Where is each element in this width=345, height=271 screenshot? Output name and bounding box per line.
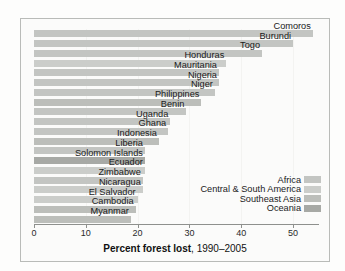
x-tick-label: 50 [288, 228, 298, 238]
legend-item-label: Oceania [267, 203, 301, 213]
x-tick-label: 20 [133, 228, 143, 238]
legend-item: Africa [200, 175, 321, 185]
gridline [86, 29, 87, 224]
x-tick-label: 10 [81, 228, 91, 238]
legend-item: Southeast Asia [200, 194, 321, 204]
axis-title-plain: , 1990–2005 [191, 243, 247, 254]
x-axis-line [34, 224, 319, 225]
chart-legend: AfricaCentral & South AmericaSoutheast A… [200, 175, 321, 213]
legend-item-label: Africa [278, 175, 302, 185]
bar-label: Myanmar [91, 208, 129, 217]
bar-label: Togo [240, 42, 260, 51]
bar-label: Burundi [259, 32, 291, 41]
x-tick-label: 40 [236, 228, 246, 238]
legend-swatch [304, 205, 321, 212]
bar [34, 50, 262, 57]
legend-swatch [304, 186, 321, 193]
legend-item: Central & South America [200, 185, 321, 195]
legend-item-label: Central & South America [200, 184, 301, 194]
axis-title-bold: Percent forest lost [103, 243, 191, 254]
bar-row [34, 216, 319, 223]
legend-swatch [304, 195, 321, 202]
bar-row [34, 138, 319, 145]
bar-row [34, 79, 319, 86]
axis-title: Percent forest lost, 1990–2005 [21, 243, 329, 254]
x-tick-label: 0 [31, 228, 36, 238]
bar-row [34, 50, 319, 57]
chart-figure: 01020304050 Percent forest lost, 1990–20… [20, 18, 330, 262]
legend-item-label: Southeast Asia [240, 194, 301, 204]
legend-swatch [304, 176, 321, 183]
bar-row [34, 118, 319, 125]
bar-row [34, 167, 319, 174]
legend-item: Oceania [200, 204, 321, 214]
bar-row [34, 128, 319, 135]
x-tick-label: 30 [184, 228, 194, 238]
